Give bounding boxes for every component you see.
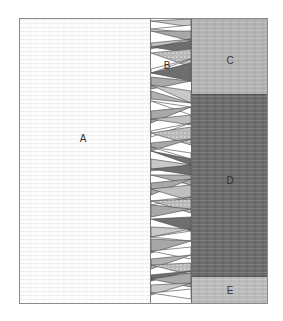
triangle-strip-pattern (151, 19, 191, 303)
region-b-label: B (164, 61, 171, 71)
region-b-strip: B (151, 19, 191, 303)
region-c-label: C (226, 56, 233, 66)
region-a-label: A (80, 134, 87, 144)
region-d-label: D (226, 176, 233, 186)
region-d: D (191, 94, 267, 276)
region-e: E (191, 276, 267, 303)
region-c: C (191, 19, 267, 94)
region-a: A (20, 19, 151, 303)
region-e-label: E (227, 286, 234, 296)
region-diagram: A (19, 18, 268, 304)
